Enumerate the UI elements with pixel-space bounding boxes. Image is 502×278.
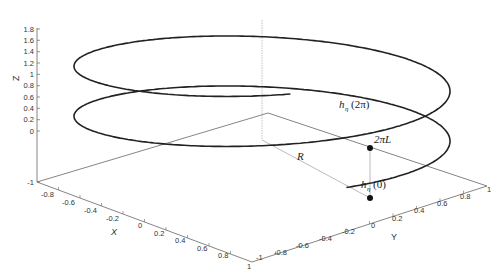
z-tick: 0.8 — [24, 81, 34, 90]
marker-h0 — [367, 195, 373, 201]
x-tick: -0.4 — [84, 206, 97, 215]
z-tick: -1 — [27, 178, 34, 187]
y-tick: 0.4 — [414, 206, 424, 215]
h0-arg: (0) — [373, 178, 386, 191]
x-tick: 1 — [247, 262, 251, 271]
x-tick: 0 — [138, 221, 142, 230]
z-tick: 0.6 — [24, 93, 34, 102]
y-tick: 1 — [487, 185, 491, 194]
y-tick: 0 — [371, 221, 375, 230]
y-tick: -1 — [256, 253, 263, 262]
radius-label: R — [296, 150, 304, 162]
z-axis-label: Z — [11, 75, 21, 81]
pitch-label: 2πL — [374, 133, 391, 145]
y-tick: -0.8 — [274, 248, 287, 257]
y-tick: -0.2 — [342, 227, 355, 236]
x-tick: 0.4 — [175, 236, 185, 245]
y-tick: 0.2 — [392, 214, 402, 223]
x-tick: 0.8 — [218, 251, 228, 260]
x-tick: -0.2 — [106, 214, 119, 223]
y-tick-labels: -1 -0.8 -0.6 -0.4 -0.2 0 0.2 0.4 0.6 0.8… — [256, 185, 491, 262]
z-tick: 1.6 — [24, 36, 34, 45]
z-tick: 0.2 — [24, 115, 34, 124]
radius-line — [262, 140, 370, 198]
z-tick: 1 — [30, 70, 34, 79]
z-tick: 1.8 — [24, 25, 34, 34]
h2pi-arg: (2π) — [351, 98, 370, 111]
annotation-pitch: 2πL — [374, 133, 391, 145]
z-tick: 1.4 — [24, 47, 34, 56]
y-axis-label: Y — [391, 232, 397, 242]
radius-guides — [262, 140, 370, 198]
y-tick: -0.4 — [319, 234, 332, 243]
back-edge-left — [37, 113, 268, 182]
z-tick: 1.2 — [24, 59, 34, 68]
y-tick: -0.6 — [296, 241, 309, 250]
x-tick: 0.6 — [197, 244, 207, 253]
z-tick: 0 — [30, 127, 34, 136]
annotation-radius: R — [296, 150, 304, 162]
y-tick: 0.6 — [437, 199, 447, 208]
y-tick: 0.8 — [460, 192, 470, 201]
x-tick: 0.2 — [154, 229, 164, 238]
annotation-h0: h η (0) — [361, 178, 386, 193]
z-tick: 0.4 — [24, 104, 34, 113]
h2pi-sub: η — [345, 105, 349, 113]
z-tick-labels: 1.8 1.6 1.4 1.2 1 0.8 0.6 0.4 0.2 0 -1 — [24, 25, 34, 188]
marker-h2pi — [367, 145, 373, 151]
x-axis-label: X — [110, 227, 118, 237]
annotation-h2pi: h η (2π) — [339, 98, 370, 113]
h0-sub: η — [367, 185, 371, 193]
x-tick: -0.6 — [62, 198, 75, 207]
x-tick: -0.8 — [41, 190, 54, 199]
x-tick-labels: -0.8 -0.6 -0.4 -0.2 0 0.2 0.4 0.6 0.8 1 — [41, 190, 251, 271]
helix-3d-plot: 1.8 1.6 1.4 1.2 1 0.8 0.6 0.4 0.2 0 -1 Z… — [0, 0, 502, 278]
z-ticks — [37, 29, 40, 182]
